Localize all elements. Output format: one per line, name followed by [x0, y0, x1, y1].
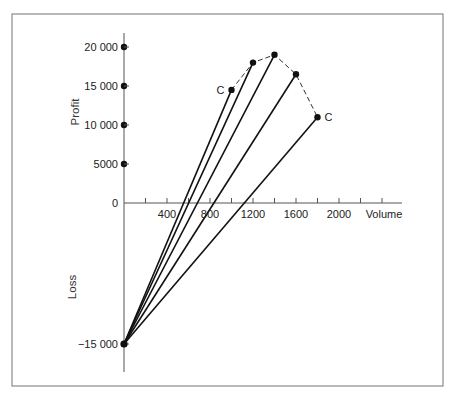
y-tick-label: −15 000 — [78, 338, 118, 350]
chart-frame — [12, 14, 443, 386]
data-point — [250, 59, 256, 65]
x-tick-label: 1200 — [241, 208, 265, 220]
x-tick-label: 800 — [201, 208, 219, 220]
y-tick-label: 10 000 — [84, 119, 118, 131]
profit-volume-chart: 400800120016002000Volume20 00015 00010 0… — [0, 0, 461, 408]
y-tick-label: 5000 — [94, 158, 118, 170]
data-point — [228, 87, 234, 93]
data-point — [293, 71, 299, 77]
data-point — [314, 114, 320, 120]
x-tick-label: 2000 — [327, 208, 351, 220]
profit-lines — [124, 55, 318, 344]
y-axis-title-profit: Profit — [69, 98, 81, 126]
axis-labels: 400800120016002000Volume20 00015 00010 0… — [66, 41, 402, 350]
axes — [121, 33, 402, 372]
x-tick-label: 1600 — [284, 208, 308, 220]
annotation-c-left: C — [217, 84, 225, 96]
y-tick-label: 20 000 — [84, 41, 118, 53]
profit-line — [124, 55, 275, 344]
origin-point — [120, 340, 127, 347]
x-tick-label: 400 — [158, 208, 176, 220]
y-axis-title-loss: Loss — [66, 275, 78, 300]
profit-line — [124, 117, 318, 344]
data-point — [271, 52, 277, 58]
y-tick-label: 15 000 — [84, 80, 118, 92]
x-axis-title: Volume — [366, 208, 403, 220]
y-tick-label: 0 — [112, 197, 118, 209]
annotation-c-right: C — [325, 111, 333, 123]
